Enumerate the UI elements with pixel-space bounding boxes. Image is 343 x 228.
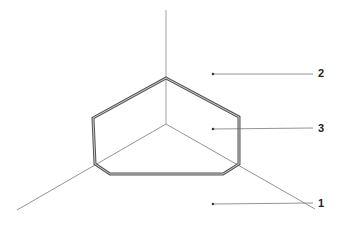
leader-line-2 — [212, 73, 313, 76]
leader-line-3 — [212, 128, 313, 131]
corner-diagram — [0, 0, 343, 228]
label-1: 1 — [318, 198, 324, 209]
label-3: 3 — [318, 123, 324, 134]
leader-line-1 — [212, 203, 313, 206]
label-2: 2 — [318, 68, 324, 79]
left-axis-line — [17, 124, 166, 210]
